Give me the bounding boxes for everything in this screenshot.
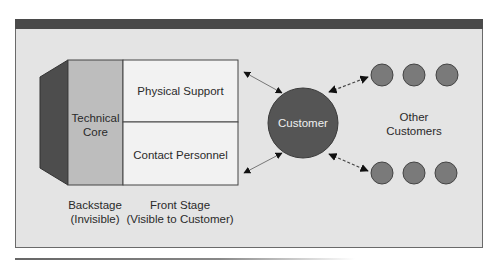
technical-core-side: [40, 60, 68, 185]
customer-label: Customer: [268, 116, 338, 130]
arrow-customer-others-bottom: [329, 154, 368, 171]
technical-core-label: Technical Core: [68, 111, 123, 139]
arrow-contact-customer: [244, 153, 282, 173]
other-customers-top-row: [371, 64, 458, 86]
contact-personnel-label: Contact Personnel: [123, 148, 238, 162]
arrow-physical-customer: [244, 72, 282, 93]
backstage-label: Backstage (Invisible): [60, 198, 130, 226]
other-customers-bottom-row: [371, 162, 457, 184]
other-customers-label: Other Customers: [374, 110, 454, 138]
front-stage-label: Front Stage (Visible to Customer): [125, 198, 235, 226]
arrow-customer-others-top: [329, 77, 368, 92]
physical-support-label: Physical Support: [123, 84, 238, 98]
